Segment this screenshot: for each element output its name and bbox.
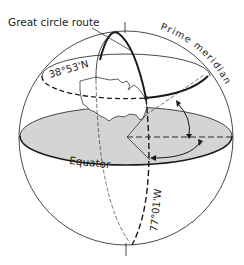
longitude-label: 77°01'W bbox=[148, 188, 163, 232]
latitude-label: 38°53'N bbox=[48, 58, 90, 80]
latitude-arc-thick bbox=[146, 76, 208, 98]
great-circle-route-label: Great circle route bbox=[8, 16, 100, 28]
prime-meridian-label-path: Prime meridian bbox=[159, 21, 234, 87]
washington-point bbox=[144, 96, 148, 100]
prime-meridian-back bbox=[96, 33, 113, 80]
prime-meridian-label: Prime meridian bbox=[159, 21, 234, 87]
globe-diagram: Great circle route Prime meridian 38°53'… bbox=[0, 0, 244, 265]
